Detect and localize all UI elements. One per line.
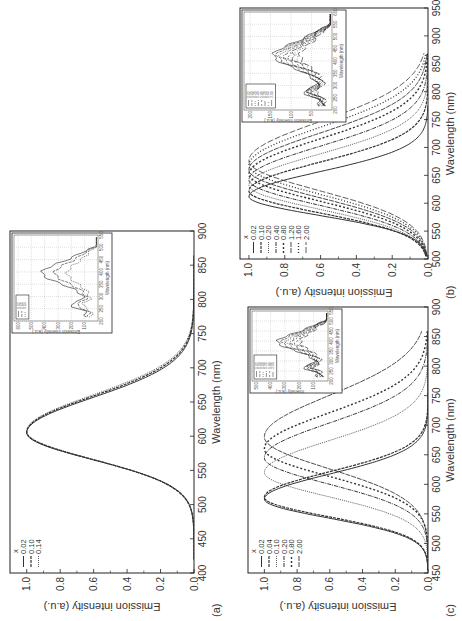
y-axis-title: Emission intensity (a.u.) [276, 287, 393, 299]
x-tick-label: 600 [431, 194, 442, 211]
y-tick-label: 0.2 [390, 577, 401, 591]
y-tick-label: 0.6 [88, 577, 99, 591]
legend: x0.020.100.200.400.801.201.602.00 [241, 225, 311, 253]
y-tick-label: 0.2 [155, 577, 166, 591]
svg-text:500: 500 [333, 32, 338, 40]
x-tick-label: 600 [431, 476, 442, 493]
y-tick-label: 0.0 [423, 263, 434, 277]
svg-text:300: 300 [329, 357, 334, 365]
y-tick-label: 0.8 [279, 263, 290, 277]
svg-text:400: 400 [329, 337, 334, 345]
panel-label: (a) [210, 604, 222, 617]
y-tick-label: 1.0 [21, 577, 32, 591]
x-tick-label: 900 [197, 222, 208, 239]
x-tick-label: 700 [197, 359, 208, 376]
svg-text:200: 200 [329, 377, 334, 385]
y-tick-label: 1.0 [243, 263, 254, 277]
x-axis-title: Wavelength (nm) [444, 92, 456, 175]
svg-text:450: 450 [329, 327, 334, 335]
x-tick-label: 650 [431, 446, 442, 463]
svg-text:250: 250 [329, 367, 334, 375]
y-tick-label: 0.6 [324, 577, 335, 591]
svg-text:550: 550 [329, 307, 334, 315]
svg-text:200: 200 [297, 382, 302, 390]
x-axis-title: Wavelength (nm) [210, 360, 222, 443]
svg-text:300: 300 [333, 81, 338, 89]
svg-text:400: 400 [333, 57, 338, 65]
svg-text:500: 500 [254, 382, 259, 390]
svg-text:100: 100 [311, 382, 316, 390]
y-axis-title: Emission intensity (a.u.) [44, 601, 161, 613]
svg-text:50: 50 [309, 111, 314, 117]
svg-text:600: 600 [333, 8, 338, 16]
svg-text:2.00: 2.00 [270, 91, 274, 98]
svg-text:200: 200 [333, 106, 338, 114]
x-tick-label: 750 [431, 387, 442, 404]
svg-text:500: 500 [29, 322, 34, 330]
svg-text:400: 400 [268, 382, 273, 390]
svg-text:500: 500 [329, 317, 334, 325]
svg-text:450: 450 [333, 45, 338, 53]
panel-label: (b) [444, 286, 456, 299]
svg-text:200: 200 [99, 317, 104, 325]
x-tick-label: 500 [197, 496, 208, 513]
x-tick-label: 900 [431, 27, 442, 44]
inset-y-title: Intensity (a.u.) [275, 389, 304, 394]
legend: x0.020.040.100.200.802.00 [249, 539, 304, 567]
x-tick-label: 650 [197, 393, 208, 410]
svg-text:450: 450 [99, 255, 104, 263]
x-tick-label: 550 [197, 462, 208, 479]
svg-text:2.00: 2.00 [271, 362, 275, 369]
svg-text:400: 400 [42, 322, 47, 330]
inset-y-title: Emission intensity (a.u.) [264, 118, 312, 123]
chart-svg: 5005506006507007508008509009500.00.20.40… [232, 0, 462, 303]
svg-text:350: 350 [333, 69, 338, 77]
x-tick-label: 850 [431, 328, 442, 345]
y-tick-label: 0.4 [122, 577, 133, 591]
y-tick-label: 0.4 [357, 577, 368, 591]
svg-text:250: 250 [333, 94, 338, 102]
inset-chart: 200250300350400450500550100200300400500W… [250, 307, 342, 394]
inset-x-title: Wavelength (nm) [105, 260, 110, 295]
chart-svg: 4505005506006507007508008509000.00.20.40… [232, 301, 462, 621]
x-tick-label: 950 [431, 0, 442, 16]
svg-text:350: 350 [329, 347, 334, 355]
svg-text:300: 300 [282, 382, 287, 390]
y-tick-label: 0.8 [292, 577, 303, 591]
x-tick-label: 600 [197, 427, 208, 444]
y-axis-title: Emission intensity (a.u.) [280, 601, 397, 613]
x-tick-label: 800 [431, 357, 442, 374]
inset-chart: 20025030035040045050055060050100150200Wa… [242, 8, 346, 123]
x-axis-title: Wavelength (nm) [444, 398, 456, 481]
panel-b: 5005506006507007508008509009500.00.20.40… [232, 0, 462, 303]
svg-text:550: 550 [99, 231, 104, 239]
svg-text:500: 500 [99, 243, 104, 251]
inset-y-title: Emission intensity (a.u.) [32, 329, 80, 334]
inset-x-title: Wavelength (nm) [335, 328, 340, 363]
legend-item: 2.00 [295, 539, 304, 554]
y-tick-label: 0.0 [423, 577, 434, 591]
svg-text:400: 400 [99, 268, 104, 276]
y-tick-label: 0.4 [351, 263, 362, 277]
svg-text:200: 200 [69, 322, 74, 330]
svg-text:600: 600 [16, 322, 21, 330]
legend: x0.020.100.14 [11, 539, 43, 567]
chart-svg: 4004505005506006507007508008509000.00.20… [0, 221, 228, 621]
x-tick-label: 700 [431, 416, 442, 433]
x-tick-label: 850 [431, 55, 442, 72]
inset-x-title: Wavelength (nm) [339, 43, 344, 78]
y-tick-label: 0.0 [189, 577, 200, 591]
svg-text:100: 100 [289, 111, 294, 119]
svg-text:300: 300 [99, 292, 104, 300]
y-tick-label: 0.2 [387, 263, 398, 277]
svg-text:100: 100 [82, 322, 87, 330]
svg-text:0.14: 0.14 [23, 302, 27, 309]
svg-text:250: 250 [99, 304, 104, 312]
svg-text:200: 200 [248, 111, 253, 119]
x-tick-label: 550 [431, 505, 442, 522]
x-tick-label: 550 [431, 222, 442, 239]
svg-text:550: 550 [333, 20, 338, 28]
svg-text:300: 300 [56, 322, 61, 330]
x-tick-label: 500 [431, 535, 442, 552]
x-tick-label: 800 [197, 291, 208, 308]
